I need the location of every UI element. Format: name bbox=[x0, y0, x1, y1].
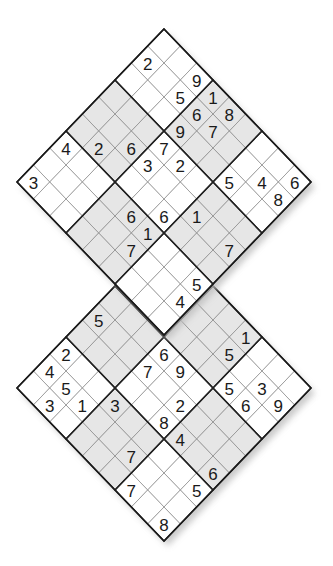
given-digit: 4 bbox=[45, 363, 54, 382]
given-digit: 2 bbox=[143, 55, 152, 74]
given-digit: 9 bbox=[176, 123, 185, 142]
given-digit: 3 bbox=[29, 174, 38, 193]
given-digit: 4 bbox=[61, 140, 70, 159]
given-digit: 7 bbox=[127, 448, 136, 467]
sudoku-board: 153956695728462354517378 918625674895726… bbox=[0, 0, 333, 566]
given-digit: 7 bbox=[143, 363, 152, 382]
given-digit: 5 bbox=[225, 380, 234, 399]
given-digit: 6 bbox=[208, 465, 217, 484]
given-digit: 2 bbox=[176, 157, 185, 176]
given-digit: 4 bbox=[176, 293, 185, 312]
top-sudoku-grid: 918625674895726317264615743 bbox=[17, 29, 315, 340]
given-digit: 5 bbox=[176, 89, 185, 108]
given-digit: 3 bbox=[143, 157, 152, 176]
given-digit: 6 bbox=[127, 140, 136, 159]
given-digit: 3 bbox=[45, 397, 54, 416]
given-digit: 5 bbox=[225, 174, 234, 193]
given-digit: 8 bbox=[225, 106, 234, 125]
given-digit: 7 bbox=[208, 123, 217, 142]
given-digit: 9 bbox=[274, 397, 283, 416]
given-digit: 1 bbox=[78, 397, 87, 416]
given-digit: 7 bbox=[127, 482, 136, 501]
given-digit: 9 bbox=[192, 72, 201, 91]
given-digit: 6 bbox=[127, 208, 136, 227]
given-digit: 9 bbox=[176, 363, 185, 382]
given-digit: 3 bbox=[257, 380, 266, 399]
given-digit: 7 bbox=[127, 242, 136, 261]
given-digit: 6 bbox=[159, 346, 168, 365]
given-digit: 8 bbox=[274, 191, 283, 210]
given-digit: 7 bbox=[159, 140, 168, 159]
given-digit: 5 bbox=[192, 276, 201, 295]
given-digit: 6 bbox=[159, 208, 168, 227]
given-digit: 5 bbox=[225, 346, 234, 365]
given-digit: 2 bbox=[61, 346, 70, 365]
given-digit: 7 bbox=[225, 242, 234, 261]
given-digit: 6 bbox=[192, 106, 201, 125]
given-digit: 2 bbox=[176, 397, 185, 416]
given-digit: 2 bbox=[94, 140, 103, 159]
given-digit: 5 bbox=[61, 380, 70, 399]
given-digit: 1 bbox=[192, 208, 201, 227]
given-digit: 1 bbox=[208, 89, 217, 108]
given-digit: 8 bbox=[159, 516, 168, 535]
given-digit: 8 bbox=[159, 414, 168, 433]
given-digit: 6 bbox=[290, 174, 299, 193]
given-digit: 1 bbox=[241, 329, 250, 348]
given-digit: 4 bbox=[257, 174, 266, 193]
given-digit: 3 bbox=[110, 397, 119, 416]
given-digit: 4 bbox=[176, 431, 185, 450]
given-digit: 5 bbox=[192, 482, 201, 501]
given-digit: 6 bbox=[241, 397, 250, 416]
given-digit: 5 bbox=[94, 312, 103, 331]
given-digit: 1 bbox=[143, 225, 152, 244]
